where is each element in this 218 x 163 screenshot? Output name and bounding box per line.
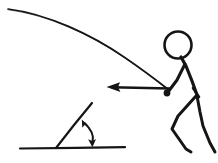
ball xyxy=(164,90,171,97)
canvas-background xyxy=(0,0,218,163)
projectile-diagram-figure: Hand drawn diagram: a stick figure leans… xyxy=(0,0,218,163)
ground-line xyxy=(20,147,125,148)
diagram-canvas xyxy=(0,0,218,163)
velocity-arrow-shaft xyxy=(112,87,170,88)
